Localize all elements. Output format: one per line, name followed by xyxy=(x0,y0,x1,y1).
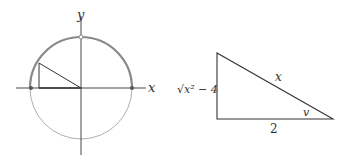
x-axis-label: x xyxy=(148,80,156,95)
right-triangle xyxy=(217,53,333,119)
triangle-figure: x 2 √x² − 4 v xyxy=(177,53,333,136)
angle-label: v xyxy=(303,106,310,119)
radius-line xyxy=(39,63,81,88)
hypotenuse-label: x xyxy=(275,70,282,84)
height-label: √x² − 4 xyxy=(177,83,218,96)
circle-figure: y x xyxy=(16,7,156,155)
endpoint-left xyxy=(29,86,33,90)
open-point-top xyxy=(79,35,83,39)
y-axis-label: y xyxy=(76,7,85,22)
endpoint-right xyxy=(130,86,134,90)
base-label: 2 xyxy=(270,122,278,136)
diagram-canvas: y x x 2 √x² − 4 v xyxy=(0,0,350,161)
